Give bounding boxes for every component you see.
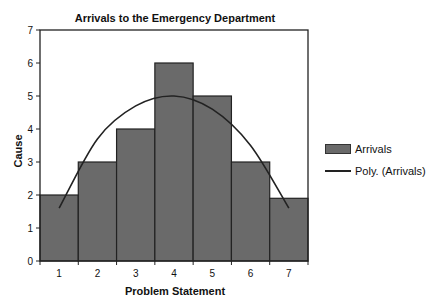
bar [155, 63, 193, 261]
legend: Arrivals Poly. (Arrivals) [325, 138, 426, 182]
x-tick-label: 7 [286, 268, 292, 279]
y-tick-label: 7 [27, 25, 33, 36]
y-tick-label: 1 [27, 223, 33, 234]
bar [40, 195, 78, 261]
x-tick-label: 2 [95, 268, 101, 279]
y-tick-label: 6 [27, 58, 33, 69]
x-tick-label: 5 [210, 268, 216, 279]
legend-label: Poly. (Arrivals) [355, 165, 426, 177]
x-tick-label: 4 [171, 268, 177, 279]
legend-item-poly-arrivals: Poly. (Arrivals) [325, 160, 426, 182]
bar [193, 96, 231, 261]
bar [231, 162, 269, 261]
legend-label: Arrivals [355, 143, 392, 155]
x-axis-label: Problem Statement [40, 285, 310, 297]
y-tick-label: 0 [27, 256, 33, 267]
x-tick-label: 6 [248, 268, 254, 279]
y-tick-label: 2 [27, 190, 33, 201]
bar [78, 162, 116, 261]
x-tick-label: 1 [56, 268, 62, 279]
y-tick-label: 4 [27, 124, 33, 135]
bar [117, 129, 155, 261]
y-tick-label: 5 [27, 91, 33, 102]
bar-series [40, 63, 308, 261]
y-tick-label: 3 [27, 157, 33, 168]
legend-item-arrivals: Arrivals [325, 138, 426, 160]
bar-swatch-icon [325, 144, 351, 154]
x-tick-label: 3 [133, 268, 139, 279]
line-swatch-icon [325, 170, 351, 172]
